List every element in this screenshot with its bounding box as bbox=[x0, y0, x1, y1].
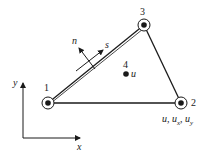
node-1-marker bbox=[42, 97, 54, 109]
x-axis-label: x bbox=[77, 142, 81, 152]
node-4-label: 4 bbox=[123, 60, 128, 70]
tangent-label: s bbox=[105, 40, 109, 50]
node-2-label: 2 bbox=[191, 98, 196, 108]
node-4-marker bbox=[123, 71, 129, 77]
coordinate-axes bbox=[23, 83, 80, 138]
node-4-dof-label: u bbox=[131, 69, 136, 79]
node-2-dof-labels: u, ux, uy bbox=[162, 114, 193, 127]
node-1-label: 1 bbox=[44, 83, 49, 93]
node-2-marker bbox=[175, 97, 187, 109]
element-diagram bbox=[0, 0, 209, 157]
normal-label: n bbox=[72, 36, 77, 46]
node-3-label: 3 bbox=[140, 7, 145, 17]
node-3-marker bbox=[138, 19, 150, 31]
normal-tangent-arrows bbox=[76, 48, 103, 71]
y-axis-label: y bbox=[13, 78, 17, 88]
triangle-edges bbox=[48, 25, 181, 103]
